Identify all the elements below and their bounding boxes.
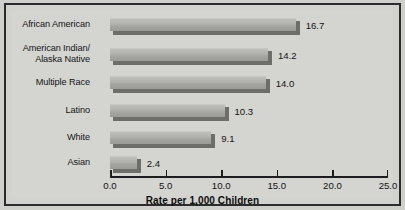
x-axis-tick-label-3: 10.0 [212, 180, 231, 191]
x-axis-tick-1 [110, 170, 112, 176]
x-axis-tick-label-5: 20.0 [323, 180, 342, 191]
x-axis-tick-label-4: 15.0 [267, 180, 286, 191]
x-axis-tick-4 [277, 170, 279, 176]
category-label-2: American Indian/ Alaska Native [0, 43, 90, 64]
bar-depth-bottom [113, 144, 214, 148]
bar-depth-side [137, 159, 141, 173]
bar-face [110, 156, 137, 169]
x-axis-tick-label-1: 0.0 [103, 180, 116, 191]
category-label-5: White [0, 132, 90, 143]
bar-chart-figure: African American16.7American Indian/ Ala… [0, 0, 405, 210]
bar-depth-bottom [113, 169, 140, 173]
x-axis-tick-3 [221, 170, 223, 176]
bar-value-label-5: 9.1 [221, 133, 234, 144]
x-axis-tick-2 [166, 170, 168, 176]
bar-face [110, 131, 211, 144]
bar-3 [110, 76, 270, 93]
x-axis-tick-label-2: 5.0 [159, 180, 172, 191]
bar-value-label-1: 16.7 [306, 20, 325, 31]
category-label-4: Latino [0, 105, 90, 116]
bar-6 [110, 156, 141, 173]
bar-value-label-3: 14.0 [276, 78, 295, 89]
bar-depth-side [266, 79, 270, 93]
bar-value-label-2: 14.2 [278, 50, 297, 61]
bar-depth-bottom [113, 31, 299, 35]
category-label-1: African American [0, 19, 90, 30]
bar-depth-side [211, 134, 215, 148]
bar-value-label-6: 2.4 [147, 158, 160, 169]
bar-face [110, 76, 266, 89]
x-axis-line [110, 176, 388, 178]
bar-face [110, 48, 268, 61]
bar-depth-bottom [113, 89, 269, 93]
bar-depth-side [225, 107, 229, 121]
bar-face [110, 104, 225, 117]
bar-depth-side [268, 51, 272, 65]
bar-5 [110, 131, 215, 148]
category-label-6: Asian [0, 157, 90, 168]
bar-depth-bottom [113, 61, 271, 65]
bar-1 [110, 18, 300, 35]
plot-area: African American16.7American Indian/ Ala… [12, 10, 393, 198]
chart-frame: African American16.7American Indian/ Ala… [4, 3, 401, 206]
bar-depth-side [296, 21, 300, 35]
bar-value-label-4: 10.3 [235, 106, 254, 117]
category-label-3: Multiple Race [0, 77, 90, 88]
chart-plot-surface: African American16.7American Indian/ Ala… [12, 10, 393, 198]
x-axis-title: Rate per 1,000 Children [12, 195, 393, 206]
x-axis-tick-6 [387, 170, 389, 176]
bar-depth-bottom [113, 117, 228, 121]
x-axis-tick-label-6: 25.0 [379, 180, 398, 191]
bar-2 [110, 48, 272, 65]
bar-4 [110, 104, 229, 121]
x-axis-tick-5 [332, 170, 334, 176]
bar-face [110, 18, 296, 31]
